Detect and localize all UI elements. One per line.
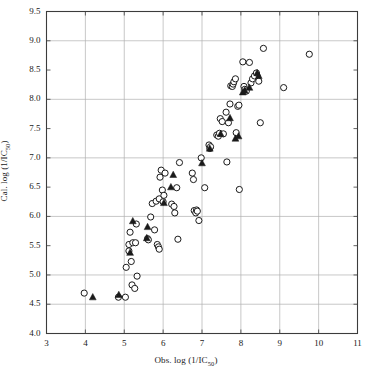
y-tick-label: 8.5	[11, 64, 41, 74]
data-point-circle	[161, 192, 167, 198]
data-point-circle	[171, 203, 177, 209]
data-point-circle	[128, 258, 134, 264]
y-tick-label: 5.0	[11, 269, 41, 279]
data-point-circle	[172, 210, 178, 216]
plot-canvas	[0, 0, 372, 378]
data-point-circle	[256, 78, 262, 84]
data-point-circle	[190, 176, 196, 182]
data-points	[81, 45, 312, 300]
y-tick-label: 8.0	[11, 93, 41, 103]
x-tick-label: 9	[270, 338, 290, 348]
data-point-circle	[196, 217, 202, 223]
data-point-circle	[148, 214, 154, 220]
data-point-circle	[162, 170, 168, 176]
x-axis-label-text: Obs. log (1/IC50)	[155, 355, 218, 365]
x-tick-label: 4	[75, 338, 95, 348]
series-1	[81, 45, 312, 300]
data-point-circle	[176, 159, 182, 165]
data-point-circle	[236, 102, 242, 108]
x-tick-label: 6	[153, 338, 173, 348]
data-point-triangle	[89, 294, 96, 300]
data-point-circle	[236, 186, 242, 192]
y-axis-label-text: Cal. log (1/IC50)	[0, 106, 11, 236]
x-axis-label: Obs. log (1/IC50)	[0, 355, 372, 367]
data-point-circle	[227, 101, 233, 107]
scatter-plot-figure: 34567891011 4.04.55.05.56.06.57.07.58.08…	[0, 0, 372, 378]
x-tick-label: 5	[114, 338, 134, 348]
data-point-circle	[306, 51, 312, 57]
x-tick-label: 8	[231, 338, 251, 348]
data-point-circle	[122, 294, 128, 300]
data-point-circle	[175, 236, 181, 242]
data-point-circle	[246, 59, 252, 65]
y-tick-label: 9.5	[11, 6, 41, 16]
data-point-circle	[123, 264, 129, 270]
data-point-triangle	[144, 223, 151, 229]
data-point-triangle	[168, 183, 175, 189]
data-point-circle	[151, 227, 157, 233]
x-tick-label: 11	[348, 338, 368, 348]
data-point-circle	[260, 45, 266, 51]
data-point-circle	[224, 159, 230, 165]
data-point-circle	[257, 120, 263, 126]
x-tick-label: 10	[309, 338, 329, 348]
grid-lines	[47, 12, 358, 334]
data-point-circle	[232, 76, 238, 82]
data-point-circle	[240, 59, 246, 65]
data-point-circle	[223, 109, 229, 115]
y-tick-label: 9.0	[11, 35, 41, 45]
data-point-circle	[156, 246, 162, 252]
data-point-circle	[202, 185, 208, 191]
x-tick-label: 7	[192, 338, 212, 348]
y-tick-label: 7.5	[11, 123, 41, 133]
data-point-circle	[134, 273, 140, 279]
data-point-circle	[198, 155, 204, 161]
data-point-circle	[81, 290, 87, 296]
data-point-circle	[219, 118, 225, 124]
data-point-circle	[194, 208, 200, 214]
data-point-triangle	[170, 171, 177, 177]
y-tick-label: 6.5	[11, 181, 41, 191]
y-tick-label: 7.0	[11, 152, 41, 162]
data-point-circle	[132, 240, 138, 246]
data-point-circle	[189, 170, 195, 176]
x-tick-label: 3	[37, 338, 57, 348]
y-tick-label: 5.5	[11, 240, 41, 250]
data-point-triangle	[129, 217, 136, 223]
y-tick-label: 4.0	[11, 328, 41, 338]
y-tick-label: 6.0	[11, 210, 41, 220]
y-tick-label: 4.5	[11, 298, 41, 308]
data-point-circle	[132, 285, 138, 291]
data-point-circle	[281, 85, 287, 91]
data-point-circle	[127, 229, 133, 235]
